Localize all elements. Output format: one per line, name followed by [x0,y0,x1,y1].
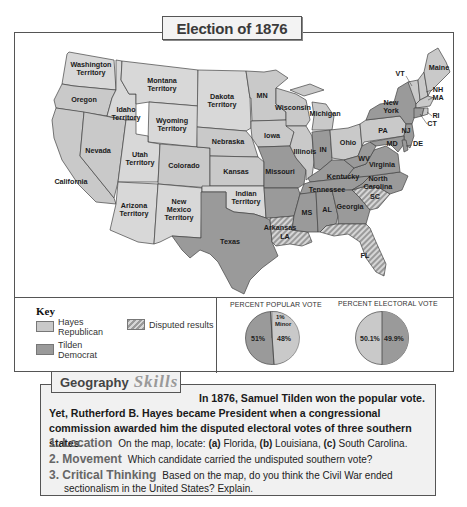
svg-text:Territory: Territory [147,84,176,93]
svg-text:DE: DE [413,139,423,148]
state-florida [320,224,386,276]
question-1: 1. LocationOn the map, locate: (a) Flori… [49,437,407,450]
popular-hayes-pct: 48% [277,335,291,342]
svg-text:York: York [383,106,398,115]
popular-vote-title: PERCENT POPULAR VOTE [230,301,322,308]
svg-text:Tennessee: Tennessee [309,185,346,194]
key-label-democrat: Tilden Democrat [58,340,97,360]
svg-text:NJ: NJ [401,126,410,135]
map-title-box: Election of 1876 [162,16,302,40]
svg-text:WV: WV [358,154,370,163]
svg-text:Territory: Territory [76,68,105,77]
legend-and-charts: Key Hayes Republican Tilden Democrat Dis… [14,297,454,372]
question-1-a-text: Florida, [221,438,260,449]
election-map: WashingtonTerritory Oregon California Ne… [14,32,454,297]
svg-text:Wisconsin: Wisconsin [275,103,311,112]
question-2-text: Which candidate carried the undisputed s… [128,454,373,465]
svg-text:California: California [54,177,88,186]
svg-text:Nevada: Nevada [85,146,112,155]
question-1-b-text: Louisiana, [272,438,323,449]
question-3-label: 3. Critical Thinking [49,468,156,482]
svg-text:Oregon: Oregon [71,95,97,104]
svg-text:FL: FL [361,251,370,260]
svg-text:IN: IN [319,145,326,154]
key-label-disputed: Disputed results [149,320,214,330]
question-1-text: On the map, locate: [118,438,208,449]
question-3-text-2: sectionalism in the United States? Expla… [49,482,393,495]
svg-text:Nebraska: Nebraska [212,137,245,146]
svg-text:Territory: Territory [164,213,193,222]
electoral-hayes-pct: 50.1% [360,335,380,342]
svg-text:Territory: Territory [125,158,154,167]
svg-text:Texas: Texas [220,237,240,246]
key-label-tilden: Tilden [58,340,97,350]
svg-text:CT: CT [427,119,437,128]
electoral-tilden-pct: 49.9% [384,335,404,342]
svg-text:Carolina: Carolina [364,182,394,191]
question-3-text: Based on the map, do you think the Civil… [162,470,392,481]
map-title: Election of 1876 [176,20,287,37]
svg-text:Territory: Territory [119,209,148,218]
svg-text:MS: MS [302,208,313,217]
svg-text:Iowa: Iowa [264,131,281,140]
svg-text:SC: SC [370,192,380,201]
key-title: Key [36,305,55,317]
key-label-republican-party: Republican [58,327,103,337]
svg-text:MD: MD [386,139,397,148]
question-1-b: (b) [260,438,273,449]
skills-tab-geography: Geography [60,375,129,390]
svg-text:Georgia: Georgia [336,202,364,211]
svg-text:AL: AL [322,205,332,214]
question-1-c-text: South Carolina. [336,438,408,449]
svg-text:Illinois: Illinois [294,147,317,156]
map-key: Key Hayes Republican Tilden Democrat Dis… [14,298,217,373]
swatch-republican [36,321,54,332]
svg-text:Virginia: Virginia [369,160,396,169]
svg-text:Michigan: Michigan [309,109,340,118]
svg-text:MA: MA [432,93,443,102]
svg-text:Territory: Territory [111,113,140,122]
key-label-democrat-party: Democrat [58,350,97,360]
question-1-label: 1. Location [49,436,112,450]
svg-text:Territory: Territory [231,197,260,206]
svg-text:Colorado: Colorado [168,161,200,170]
geography-skills-tab: Geography Skills [51,371,181,393]
svg-text:Kentucky: Kentucky [327,172,359,181]
geography-skills-box: In 1876, Samuel Tilden won the popular v… [40,384,436,496]
popular-minor-label: Minor [275,321,291,327]
popular-minor-pct: 1% [276,314,285,320]
svg-text:Territory: Territory [207,100,236,109]
svg-text:VT: VT [395,69,405,78]
question-2-label: 2. Movement [49,452,122,466]
svg-text:MN: MN [256,91,267,100]
svg-text:Missouri: Missouri [265,167,295,176]
svg-text:Ohio: Ohio [340,138,357,147]
question-1-c: (c) [323,438,335,449]
svg-text:Territory: Territory [157,124,186,133]
svg-text:Kansas: Kansas [223,167,249,176]
skills-tab-skills: Skills [134,372,179,392]
electoral-vote-title: PERCENT ELECTORAL VOTE [338,300,438,307]
question-3: 3. Critical ThinkingBased on the map, do… [49,469,393,495]
svg-text:LA: LA [280,232,290,241]
svg-text:Maine: Maine [429,63,449,72]
swatch-disputed [127,319,145,330]
question-2: 2. MovementWhich candidate carried the u… [49,453,372,466]
svg-text:Arkansas: Arkansas [264,223,296,232]
question-1-a: (a) [208,438,220,449]
vote-pie-charts: PERCENT POPULAR VOTE 51% 48% 1% Minor PE… [218,298,454,373]
key-label-republican: Hayes Republican [58,317,103,337]
svg-text:PA: PA [378,126,387,135]
popular-tilden-pct: 51% [251,335,265,342]
swatch-democrat [36,344,54,355]
key-label-hayes: Hayes [58,317,103,327]
